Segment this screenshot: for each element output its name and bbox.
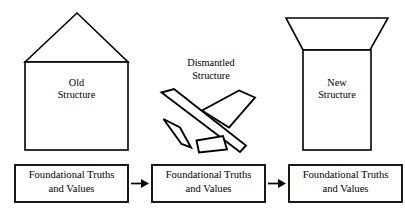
new-structure-label-line1: New (327, 77, 347, 88)
dismantled-structure-label-line2: Structure (192, 70, 230, 81)
foundation-middle: Foundational Truths and Values (152, 165, 265, 202)
old-structure-body-rect (25, 62, 128, 150)
foundation-left-line1: Foundational Truths (29, 169, 115, 180)
arrow-left-to-middle (131, 179, 149, 188)
old-structure-group: Old Structure (25, 13, 128, 150)
new-structure-group: New Structure (286, 18, 388, 150)
foundation-right: Foundational Truths and Values (289, 165, 402, 202)
diagram-svg: Old Structure Dismantled Structure New S… (0, 0, 405, 212)
foundation-left: Foundational Truths and Values (15, 165, 128, 202)
new-structure-label-line2: Structure (318, 89, 356, 100)
old-structure-label-line2: Structure (58, 89, 96, 100)
arrow-middle-to-right (268, 179, 286, 188)
arrow-right-icon-head-2 (278, 179, 286, 188)
foundation-left-line2: and Values (49, 183, 95, 194)
debris-piece-lower-left-wedge (164, 119, 192, 148)
debris-piece-bottom-quad (197, 136, 228, 153)
dismantled-structure-label-line1: Dismantled (187, 57, 235, 68)
foundation-right-line1: Foundational Truths (303, 169, 389, 180)
foundation-middle-line2: and Values (186, 183, 232, 194)
foundation-right-line2: and Values (323, 183, 369, 194)
arrow-right-icon-head-1 (141, 179, 149, 188)
old-structure-roof-triangle (25, 13, 128, 62)
foundation-middle-line1: Foundational Truths (166, 169, 252, 180)
dismantled-structure-group: Dismantled Structure (162, 57, 256, 152)
old-structure-label-line1: Old (69, 77, 85, 88)
new-structure-roof-inverted-trapezoid (286, 18, 388, 50)
diagram-canvas: Old Structure Dismantled Structure New S… (0, 0, 405, 212)
